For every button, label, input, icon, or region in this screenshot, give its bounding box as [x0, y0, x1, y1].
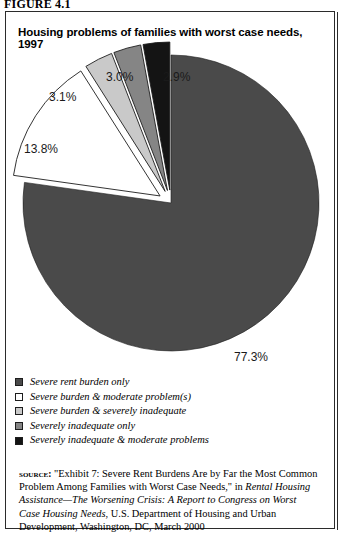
legend-swatch-4: [15, 437, 23, 445]
legend-label-0: Severe rent burden only: [30, 377, 129, 388]
source-kicker: source:: [19, 468, 51, 479]
legend-label-3: Severely inadequate only: [30, 421, 135, 432]
frame-rule: [337, 12, 338, 530]
legend-item-severe-burden-severely-inadequate[interactable]: Severe burden & severely inadequate: [15, 404, 315, 419]
legend: Severe rent burden only Severe burden & …: [15, 375, 315, 448]
pie-value-label-4: 2.9%: [163, 70, 190, 84]
pie-value-label-0: 77.3%: [234, 350, 268, 364]
legend-swatch-2: [15, 407, 23, 415]
pie-value-label-2: 3.1%: [49, 90, 76, 104]
legend-label-1: Severe burden & moderate problem(s): [30, 392, 191, 403]
figure-frame: Housing problems of families with worst …: [5, 11, 335, 529]
legend-swatch-3: [15, 422, 23, 430]
pie-value-label-3: 3.0%: [106, 70, 133, 84]
legend-label-4: Severely inadequate & moderate problems: [30, 435, 209, 446]
legend-item-severe-rent-burden-only[interactable]: Severe rent burden only: [15, 375, 315, 390]
source-citation: source: "Exhibit 7: Severe Rent Burdens …: [19, 467, 319, 533]
legend-swatch-0: [15, 378, 23, 386]
legend-swatch-1: [15, 393, 23, 401]
pie-chart: 77.3%13.8%3.1%3.0%2.9%: [6, 12, 336, 372]
legend-item-severely-inadequate-only[interactable]: Severely inadequate only: [15, 419, 315, 434]
legend-label-2: Severe burden & severely inadequate: [30, 406, 186, 417]
legend-item-severely-inadequate-moderate[interactable]: Severely inadequate & moderate problems: [15, 433, 315, 448]
pie-value-label-1: 13.8%: [24, 142, 58, 156]
legend-item-severe-burden-moderate[interactable]: Severe burden & moderate problem(s): [15, 390, 315, 405]
pie-chart-svg: [6, 12, 336, 372]
